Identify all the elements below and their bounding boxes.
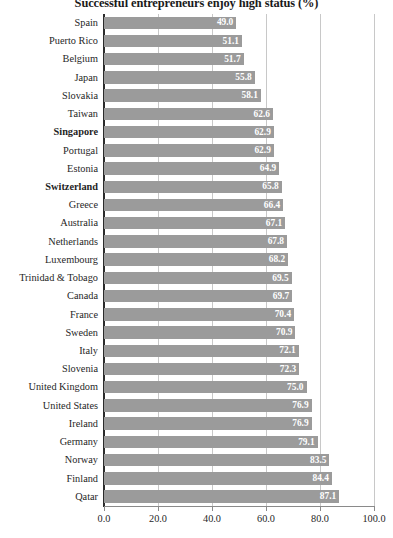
category-label: Australia bbox=[0, 214, 98, 232]
category-label: Canada bbox=[0, 287, 98, 305]
category-label: Trinidad & Tobago bbox=[0, 269, 98, 287]
category-label: United States bbox=[0, 397, 98, 415]
x-axis-tick-label: 100.0 bbox=[344, 513, 393, 524]
bar-row: Germany79.1 bbox=[0, 433, 393, 451]
bar-row: Netherlands67.8 bbox=[0, 233, 393, 251]
bar-row: Canada69.7 bbox=[0, 287, 393, 305]
category-label: Norway bbox=[0, 451, 98, 469]
bar-value-label: 72.3 bbox=[104, 363, 299, 375]
bar-row: Qatar87.1 bbox=[0, 488, 393, 506]
chart-container: Successful entrepreneurs enjoy high stat… bbox=[0, 0, 393, 538]
bar-value-label: 62.9 bbox=[104, 144, 274, 156]
bar-row: Taiwan62.6 bbox=[0, 105, 393, 123]
chart-title: Successful entrepreneurs enjoy high stat… bbox=[0, 0, 393, 10]
bar-row: Belgium51.7 bbox=[0, 50, 393, 68]
bar-value-label: 69.5 bbox=[104, 272, 292, 284]
category-label: Japan bbox=[0, 69, 98, 87]
category-label: Ireland bbox=[0, 415, 98, 433]
bar-value-label: 87.1 bbox=[104, 490, 339, 502]
bar-row: Norway83.5 bbox=[0, 451, 393, 469]
bar-row: United Kingdom75.0 bbox=[0, 378, 393, 396]
bar-value-label: 62.9 bbox=[104, 126, 274, 138]
bar-value-label: 69.7 bbox=[104, 290, 292, 302]
category-label: Sweden bbox=[0, 324, 98, 342]
bar-value-label: 68.2 bbox=[104, 253, 288, 265]
x-axis-tickmark bbox=[266, 507, 267, 511]
x-axis-tickmark bbox=[158, 507, 159, 511]
category-label: Puerto Rico bbox=[0, 32, 98, 50]
bar-value-label: 70.4 bbox=[104, 308, 294, 320]
x-axis-tick-label: 80.0 bbox=[290, 513, 350, 524]
bar-value-label: 51.7 bbox=[104, 53, 244, 65]
bar-value-label: 67.8 bbox=[104, 235, 287, 247]
x-axis-tickmark bbox=[374, 507, 375, 511]
bar-value-label: 66.4 bbox=[104, 199, 283, 211]
bar-row: Finland84.4 bbox=[0, 470, 393, 488]
x-axis-tick-label: 0.0 bbox=[74, 513, 134, 524]
category-label: Taiwan bbox=[0, 105, 98, 123]
bar-row: United States76.9 bbox=[0, 397, 393, 415]
bar-value-label: 83.5 bbox=[104, 454, 329, 466]
category-label: Spain bbox=[0, 14, 98, 32]
bar-row: Switzerland65.8 bbox=[0, 178, 393, 196]
bar-value-label: 79.1 bbox=[104, 436, 318, 448]
bar-row: Italy72.1 bbox=[0, 342, 393, 360]
bar-value-label: 62.6 bbox=[104, 108, 273, 120]
category-label: Slovakia bbox=[0, 87, 98, 105]
bar-row: Slovakia58.1 bbox=[0, 87, 393, 105]
bar-value-label: 49.0 bbox=[104, 16, 236, 28]
category-label: Qatar bbox=[0, 488, 98, 506]
category-label: Italy bbox=[0, 342, 98, 360]
bar-row: Puerto Rico51.1 bbox=[0, 32, 393, 50]
bar-value-label: 76.9 bbox=[104, 417, 312, 429]
bar-value-label: 75.0 bbox=[104, 381, 307, 393]
bar-value-label: 70.9 bbox=[104, 326, 295, 338]
bar-row: Ireland76.9 bbox=[0, 415, 393, 433]
category-label: Finland bbox=[0, 470, 98, 488]
category-label: Switzerland bbox=[0, 178, 98, 196]
category-label: Slovenia bbox=[0, 360, 98, 378]
bar-row: Slovenia72.3 bbox=[0, 360, 393, 378]
category-label: Germany bbox=[0, 433, 98, 451]
category-label: Portugal bbox=[0, 142, 98, 160]
category-label: Belgium bbox=[0, 50, 98, 68]
x-axis-tick-label: 60.0 bbox=[236, 513, 296, 524]
x-axis-tick-label: 20.0 bbox=[128, 513, 188, 524]
category-label: Greece bbox=[0, 196, 98, 214]
x-axis-tick-label: 40.0 bbox=[182, 513, 242, 524]
bar-row: Portugal62.9 bbox=[0, 142, 393, 160]
bar-value-label: 55.8 bbox=[104, 71, 255, 83]
bar-row: Singapore62.9 bbox=[0, 123, 393, 141]
bar-value-label: 65.8 bbox=[104, 180, 282, 192]
bar-value-label: 72.1 bbox=[104, 344, 299, 356]
bar-row: Japan55.8 bbox=[0, 69, 393, 87]
category-label: Estonia bbox=[0, 160, 98, 178]
bar-row: Luxembourg68.2 bbox=[0, 251, 393, 269]
x-axis-tickmark bbox=[212, 507, 213, 511]
bar-value-label: 67.1 bbox=[104, 217, 285, 229]
x-axis-tickmark bbox=[104, 507, 105, 511]
bar-value-label: 58.1 bbox=[104, 89, 261, 101]
bar-row: Estonia64.9 bbox=[0, 160, 393, 178]
bar-row: Spain49.0 bbox=[0, 14, 393, 32]
bar-row: Trinidad & Tobago69.5 bbox=[0, 269, 393, 287]
bar-value-label: 64.9 bbox=[104, 162, 279, 174]
category-label: France bbox=[0, 306, 98, 324]
bar-value-label: 84.4 bbox=[104, 472, 332, 484]
category-label: Luxembourg bbox=[0, 251, 98, 269]
category-label: Singapore bbox=[0, 123, 98, 141]
category-label: United Kingdom bbox=[0, 378, 98, 396]
bar-value-label: 51.1 bbox=[104, 35, 242, 47]
bar-row: Sweden70.9 bbox=[0, 324, 393, 342]
bar-value-label: 76.9 bbox=[104, 399, 312, 411]
bar-row: France70.4 bbox=[0, 306, 393, 324]
category-label: Netherlands bbox=[0, 233, 98, 251]
bar-row: Australia67.1 bbox=[0, 214, 393, 232]
x-axis-tickmark bbox=[320, 507, 321, 511]
x-axis-line bbox=[104, 506, 375, 507]
bar-row: Greece66.4 bbox=[0, 196, 393, 214]
